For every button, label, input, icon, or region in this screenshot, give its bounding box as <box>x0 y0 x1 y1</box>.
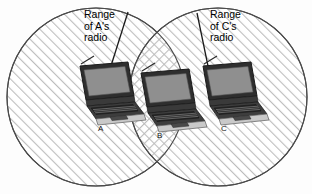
node-c-letter: C <box>221 124 227 133</box>
figure-canvas: Range of A's radio Range of C's radio A … <box>0 0 312 194</box>
range-c-label: Range of C's radio <box>210 9 241 44</box>
node-b-letter: B <box>157 131 162 140</box>
range-a-label: Range of A's radio <box>84 9 115 44</box>
node-a-letter: A <box>98 124 103 133</box>
radio-range-diagram <box>0 0 312 194</box>
